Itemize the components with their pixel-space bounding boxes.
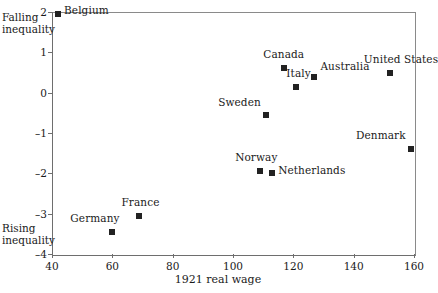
y-tick-label: –1 [35,127,47,139]
y-tick-mark [48,214,53,215]
data-point-label: Canada [263,49,304,60]
y-tick-label: –3 [35,208,47,220]
falling-inequality-line2: inequality [2,23,55,35]
data-point-label: France [121,197,159,208]
x-tick-mark [112,254,113,258]
y-tick-mark [48,93,53,94]
x-tick-label: 160 [404,260,424,272]
x-tick-mark [233,254,234,258]
falling-inequality-note: Falling inequality [2,12,55,35]
data-point-marker [55,11,61,17]
data-point-marker [257,168,263,174]
x-tick-label: 40 [45,260,58,272]
x-tick-label: 120 [283,260,303,272]
y-tick-label: –2 [35,167,47,179]
y-tick-label: 1 [40,46,47,58]
data-point-label: Germany [70,213,119,224]
data-point-marker [311,74,317,80]
data-point-marker [136,213,142,219]
falling-inequality-line1: Falling [2,11,38,23]
data-point-label: Belgium [64,5,109,16]
data-point-marker [269,170,275,176]
data-point-label: Italy [286,68,310,79]
rising-inequality-line2: inequality [2,234,55,246]
y-tick-label: –4 [35,248,47,260]
data-point-label: Sweden [218,97,261,108]
data-point-marker [109,229,115,235]
x-tick-mark [293,254,294,258]
rising-inequality-line1: Rising [2,222,36,234]
data-point-label: Netherlands [278,165,345,176]
x-tick-mark [173,254,174,258]
x-axis-title: 1921 real wage [0,273,436,286]
data-point-label: United States [364,54,438,65]
x-tick-label: 80 [166,260,179,272]
data-point-label: Norway [235,152,277,163]
data-point-marker [408,146,414,152]
x-tick-mark [354,254,355,258]
x-tick-label: 100 [223,260,243,272]
data-point-marker [293,84,299,90]
x-tick-label: 140 [344,260,364,272]
data-point-label: Australia [320,61,369,72]
y-tick-mark [48,173,53,174]
y-tick-mark [48,133,53,134]
data-point-marker [263,112,269,118]
y-tick-mark [48,52,53,53]
data-point-marker [387,70,393,76]
rising-inequality-note: Rising inequality [2,223,55,246]
y-tick-label: 0 [40,87,47,99]
y-tick-mark [48,254,53,255]
x-tick-mark [414,254,415,258]
data-point-label: Denmark [356,130,406,141]
x-tick-label: 60 [106,260,119,272]
